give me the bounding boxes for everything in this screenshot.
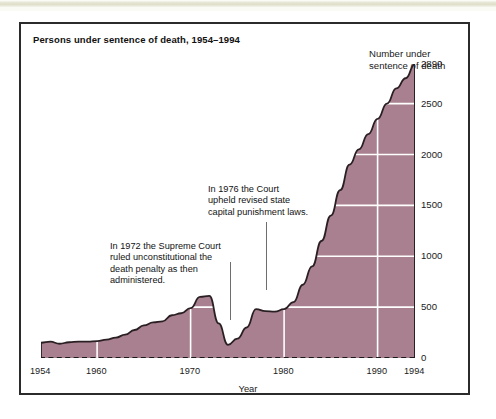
y-tick-label: 500 (421, 301, 437, 312)
annotation-1976-text: In 1976 the Court upheld revised state c… (208, 184, 308, 218)
y-tick-label: 0 (421, 352, 426, 363)
y-tick-label: 1500 (421, 199, 442, 210)
x-tick-label: 1994 (0, 366, 496, 376)
y-tick-label: 2000 (421, 149, 442, 160)
annotation-1972-leader-line (230, 262, 231, 320)
chart-title: Persons under sentence of death, 1954–19… (33, 34, 240, 45)
annotation-1972-text: In 1972 the Supreme Court ruled unconsti… (110, 241, 221, 287)
x-axis-title: Year (0, 383, 496, 394)
annotation-1976-leader-line (266, 222, 267, 290)
page-header-faint-text: ­ ­ ­ ­ ­ (205, 0, 495, 8)
y-tick-label: 1000 (421, 250, 442, 261)
y-tick-label: 2890 (421, 58, 442, 69)
y-tick-label: 2500 (421, 98, 442, 109)
